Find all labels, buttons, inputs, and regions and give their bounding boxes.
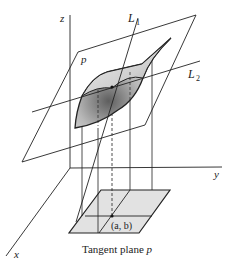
svg-text:2: 2 [196, 74, 200, 83]
tangent-point [110, 85, 113, 88]
plane-label: p [80, 53, 87, 65]
svg-text:L: L [187, 67, 195, 81]
svg-text:1: 1 [136, 18, 140, 27]
y-axis-label: y [213, 168, 219, 180]
surface-patch [75, 38, 171, 128]
z-axis-label: z [59, 12, 65, 24]
point-ab-label: (a, b) [111, 220, 132, 232]
tangent-plane-diagram: z y x p L 1 L 2 (a, b) [0, 0, 234, 264]
figure-caption: Tangent plane p [0, 243, 234, 255]
line2-label: L 2 [187, 67, 200, 83]
line1-label: L 1 [127, 11, 140, 27]
svg-text:L: L [127, 11, 135, 25]
